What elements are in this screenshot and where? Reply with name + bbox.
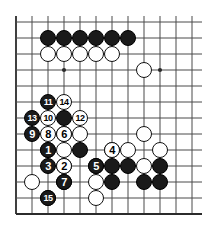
move-number-6: 6 — [56, 129, 72, 140]
white-stone — [56, 46, 72, 62]
move-number-13: 13 — [24, 114, 40, 123]
white-stone — [40, 46, 56, 62]
white-stone — [88, 46, 104, 62]
white-stone — [88, 190, 104, 206]
black-stone — [72, 142, 88, 158]
move-number-3: 3 — [40, 161, 56, 172]
black-stone — [120, 158, 136, 174]
white-stone — [72, 126, 88, 142]
black-stone — [88, 30, 104, 46]
move-number-11: 11 — [40, 98, 56, 107]
move-number-2: 2 — [56, 161, 72, 172]
move-number-7: 7 — [56, 177, 72, 188]
white-stone — [56, 142, 72, 158]
black-stone — [56, 110, 72, 126]
black-stone — [104, 30, 120, 46]
white-stone — [136, 62, 152, 78]
move-number-12: 12 — [72, 114, 88, 123]
move-number-5: 5 — [88, 161, 104, 172]
black-stone — [152, 158, 168, 174]
star-point — [158, 68, 162, 72]
black-stone — [136, 174, 152, 190]
move-number-4: 4 — [104, 145, 120, 156]
black-stone — [40, 30, 56, 46]
move-number-1: 1 — [40, 145, 56, 156]
go-diagram: 123456789101112131415 — [0, 0, 205, 240]
white-stone — [88, 174, 104, 190]
move-number-8: 8 — [40, 129, 56, 140]
black-stone — [56, 30, 72, 46]
black-stone — [104, 158, 120, 174]
white-stone — [136, 126, 152, 142]
move-number-9: 9 — [24, 129, 40, 140]
black-stone — [120, 30, 136, 46]
black-stone — [152, 174, 168, 190]
white-stone — [120, 142, 136, 158]
white-stone — [152, 142, 168, 158]
white-stone — [72, 46, 88, 62]
black-stone — [104, 174, 120, 190]
move-number-15: 15 — [40, 194, 56, 203]
black-stone — [72, 30, 88, 46]
white-stone — [24, 174, 40, 190]
white-stone — [104, 46, 120, 62]
move-number-10: 10 — [40, 114, 56, 123]
white-stone — [136, 158, 152, 174]
move-number-14: 14 — [56, 98, 72, 107]
star-point — [62, 68, 66, 72]
